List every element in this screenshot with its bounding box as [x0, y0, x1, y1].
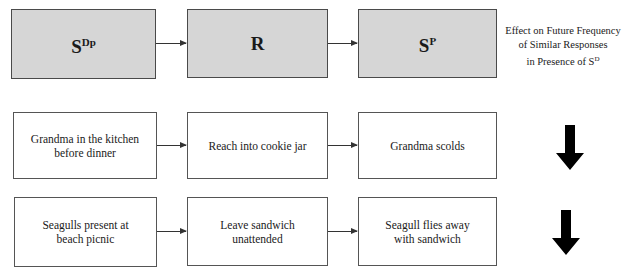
example-2-antecedent-box: Seagulls present at beach picnic	[14, 197, 157, 267]
connector-arrow	[156, 43, 186, 44]
antecedent-symbol: SDp	[71, 35, 96, 54]
connector-arrow	[157, 145, 186, 146]
example-1-antecedent-text: Grandma in the kitchen before dinner	[30, 132, 140, 160]
connector-arrow	[328, 43, 357, 44]
example-1-consequence-text: Grandma scolds	[390, 139, 464, 153]
connector-arrow	[157, 231, 186, 232]
consequence-header-box: SP	[358, 9, 497, 78]
example-1-behavior-box: Reach into cookie jar	[187, 112, 328, 179]
example-2-consequence-text: Seagull flies away with sandwich	[383, 218, 473, 246]
example-2-antecedent-text: Seagulls present at beach picnic	[36, 218, 136, 246]
behavior-header-box: R	[187, 9, 328, 78]
example-1-antecedent-box: Grandma in the kitchen before dinner	[13, 112, 157, 179]
connector-arrow	[328, 145, 357, 146]
down-arrow-icon	[551, 210, 581, 256]
consequence-symbol: SP	[419, 34, 436, 53]
behavior-symbol: R	[251, 37, 265, 51]
example-2-consequence-box: Seagull flies away with sandwich	[358, 197, 497, 266]
example-1-behavior-text: Reach into cookie jar	[208, 139, 306, 153]
down-arrow-icon	[555, 125, 585, 171]
effect-column-label: Effect on Future Frequency of Similar Re…	[500, 24, 626, 69]
antecedent-header-box: SDp	[11, 9, 156, 79]
example-1-consequence-box: Grandma scolds	[358, 112, 497, 179]
connector-arrow	[328, 231, 357, 232]
example-2-behavior-box: Leave sandwich unattended	[187, 197, 328, 266]
example-2-behavior-text: Leave sandwich unattended	[213, 218, 303, 246]
